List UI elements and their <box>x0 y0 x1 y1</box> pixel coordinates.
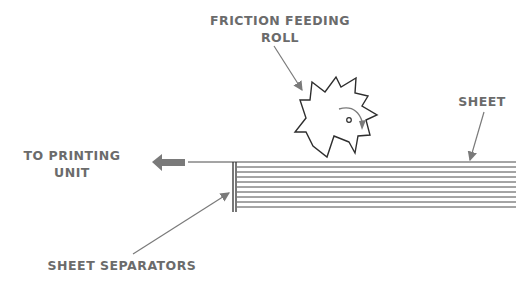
friction-feeding-roll-icon <box>295 77 377 157</box>
separators-leader-arrow <box>133 193 229 254</box>
sheet-stack <box>188 162 516 207</box>
diagram-canvas <box>0 0 528 283</box>
sheet-leader-arrow <box>470 112 484 160</box>
sheet-separators-icon <box>233 162 236 212</box>
to-printing-arrow-icon <box>152 154 185 171</box>
roll-leader-arrow <box>274 46 302 90</box>
